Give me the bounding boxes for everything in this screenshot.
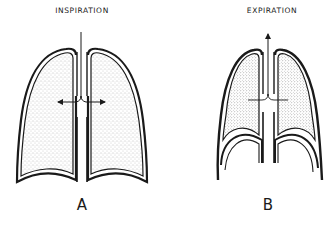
panel-letter-b: B <box>253 196 283 214</box>
panel-b-expiration <box>218 34 322 180</box>
right-lung-b <box>275 50 322 180</box>
panel-letter-a: A <box>67 196 97 214</box>
left-lung-a <box>17 49 76 182</box>
panel-a-inspiration <box>17 32 147 182</box>
right-lung-a <box>88 49 147 182</box>
left-lung-b <box>218 50 262 180</box>
lungs-diagram <box>0 0 325 225</box>
